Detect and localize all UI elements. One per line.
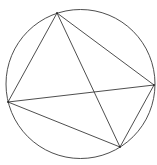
segment-top-left bbox=[8, 13, 57, 102]
segment-right-bottom bbox=[120, 85, 154, 147]
circumscribed-circle bbox=[6, 10, 155, 159]
segment-left-bottom bbox=[8, 102, 120, 147]
chord-segments bbox=[8, 13, 154, 147]
vertex-right bbox=[153, 84, 155, 86]
vertex-top bbox=[56, 12, 58, 14]
segment-left-right bbox=[8, 85, 154, 102]
vertex-bottom bbox=[119, 146, 121, 148]
vertex-points bbox=[7, 12, 155, 148]
geometry-diagram bbox=[0, 0, 157, 165]
vertex-left bbox=[7, 101, 9, 103]
segment-top-right bbox=[57, 13, 154, 85]
segment-top-bottom bbox=[57, 13, 120, 147]
